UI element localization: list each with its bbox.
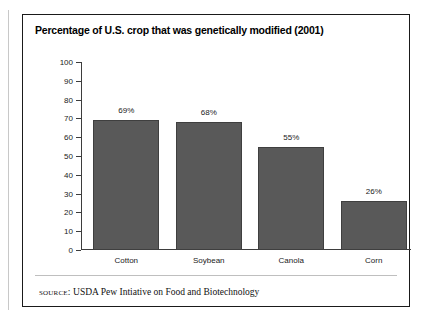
y-axis-tick-label: 90 xyxy=(64,76,73,85)
source-kicker: source: xyxy=(39,287,71,297)
bar xyxy=(341,201,407,250)
y-axis-tick xyxy=(76,137,81,138)
y-axis-tick xyxy=(76,118,81,119)
y-axis-tick-label: 40 xyxy=(64,170,73,179)
x-axis-category-label: Cotton xyxy=(93,256,159,265)
bar xyxy=(93,120,159,250)
y-axis-tick xyxy=(76,175,81,176)
y-axis-tick-label: 10 xyxy=(64,227,73,236)
bar-group: 68%Soybean xyxy=(176,62,242,250)
bar-value-label: 55% xyxy=(258,133,324,142)
source-line: source: USDA Pew Intiative on Food and B… xyxy=(39,287,259,297)
figure-frame: Percentage of U.S. crop that was genetic… xyxy=(22,14,410,307)
bar-value-label: 26% xyxy=(341,187,407,196)
y-axis-tick xyxy=(76,100,81,101)
plot-area: 0102030405060708090100 69%Cotton68%Soybe… xyxy=(81,62,411,250)
bar-value-label: 68% xyxy=(176,108,242,117)
y-axis-tick-label: 50 xyxy=(64,152,73,161)
y-axis-tick xyxy=(76,62,81,63)
y-axis-tick xyxy=(76,194,81,195)
source-divider xyxy=(35,275,397,276)
bar xyxy=(176,122,242,250)
y-axis-tick-label: 0 xyxy=(69,246,73,255)
source-text: USDA Pew Intiative on Food and Biotechno… xyxy=(73,287,259,297)
y-axis-tick-label: 60 xyxy=(64,133,73,142)
y-axis-tick xyxy=(76,156,81,157)
bar-group: 55%Canola xyxy=(258,62,324,250)
bar-group: 26%Corn xyxy=(341,62,407,250)
y-axis-tick xyxy=(76,250,81,251)
y-axis-tick xyxy=(76,81,81,82)
bars-layer: 69%Cotton68%Soybean55%Canola26%Corn xyxy=(82,62,411,250)
x-axis-category-label: Canola xyxy=(258,256,324,265)
figure-title: Percentage of U.S. crop that was genetic… xyxy=(35,24,324,36)
x-axis-category-label: Soybean xyxy=(176,256,242,265)
y-axis-tick-label: 70 xyxy=(64,114,73,123)
y-axis-tick xyxy=(76,231,81,232)
x-axis-category-label: Corn xyxy=(341,256,407,265)
y-axis-tick-label: 80 xyxy=(64,95,73,104)
y-axis-tick-label: 20 xyxy=(64,208,73,217)
y-axis-tick-label: 100 xyxy=(60,58,73,67)
y-axis-tick-label: 30 xyxy=(64,189,73,198)
page-gutter-rule xyxy=(8,10,9,310)
bar-group: 69%Cotton xyxy=(93,62,159,250)
bar xyxy=(258,147,324,250)
bar-value-label: 69% xyxy=(93,106,159,115)
y-axis-tick xyxy=(76,212,81,213)
